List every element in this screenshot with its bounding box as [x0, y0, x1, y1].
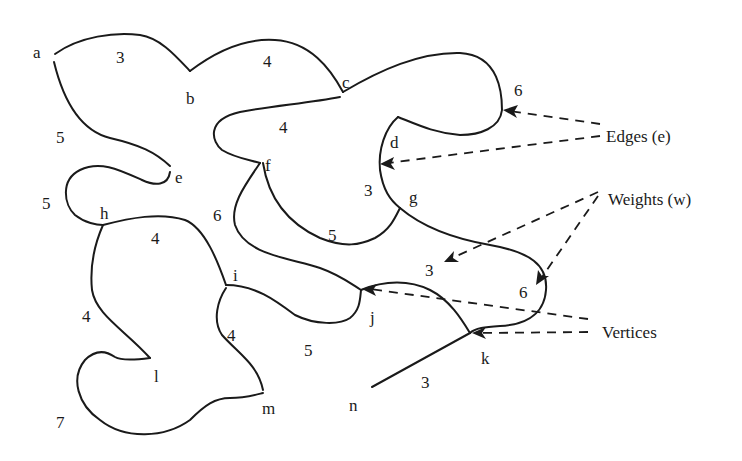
weight-label-i-j: 5 [304, 341, 313, 360]
weight-label-a-e: 5 [56, 128, 65, 147]
weight-label-a-b: 3 [116, 48, 125, 67]
vertex-label-k: k [481, 349, 490, 368]
vertex-label-d: d [390, 133, 399, 152]
vertex-label-a: a [33, 43, 41, 62]
legend-vertices: Vertices [602, 323, 657, 342]
edge-g-k [400, 208, 546, 333]
vertex-label-i: i [233, 266, 238, 285]
vertex-label-m: m [262, 399, 275, 418]
weight-label-b-c: 4 [263, 52, 272, 71]
vertex-label-h: h [100, 204, 109, 223]
edges-arrowhead-2 [380, 157, 395, 170]
weight-label-c-f: 4 [279, 118, 288, 137]
edge-h-l [91, 225, 150, 358]
weight-label-l-m: 7 [56, 413, 65, 432]
vertices-pointer-2 [480, 332, 588, 333]
weight-label-f-j: 6 [213, 206, 222, 225]
vertex-label-b: b [186, 89, 195, 108]
weight-label-c-d: 6 [514, 81, 523, 100]
legend-edges: Edges (e) [606, 127, 671, 146]
vertex-label-f: f [265, 156, 271, 175]
edge-a-e [54, 62, 170, 166]
edges-pointer-1 [510, 111, 600, 124]
edge-i-m [217, 288, 263, 390]
weight-label-j-k: 3 [425, 261, 434, 280]
weight-label-g-k: 6 [519, 283, 528, 302]
weights-arrowhead-1 [444, 251, 459, 262]
vertex-label-g: g [409, 188, 418, 207]
vertex-label-j: j [369, 308, 375, 327]
edge-c-d [343, 53, 502, 135]
weight-label-e-h: 5 [42, 194, 51, 213]
legend-weights: Weights (w) [608, 190, 691, 209]
edge-l-m [77, 352, 263, 434]
vertex-label-c: c [342, 73, 350, 92]
weight-label-i-m: 4 [227, 326, 236, 345]
weighted-graph-diagram: a b c d e f g h i j k l m n 3 4 5 4 6 3 … [0, 0, 742, 461]
weight-label-h-l: 4 [82, 307, 91, 326]
edges-pointer-2 [388, 136, 600, 163]
vertices-pointer-1 [370, 289, 588, 319]
weights-pointer-1 [450, 192, 598, 259]
edge-h-i [103, 216, 226, 285]
weight-label-f-g: 5 [328, 226, 337, 245]
graph-edges [54, 34, 546, 434]
weight-label-d-g: 3 [364, 181, 373, 200]
vertex-label-l: l [154, 367, 159, 386]
edge-c-f [214, 97, 340, 163]
vertex-label-e: e [175, 168, 183, 187]
weight-label-h-i: 4 [151, 229, 160, 248]
vertex-label-n: n [349, 396, 358, 415]
edge-i-j [226, 285, 361, 323]
edge-f-j [234, 163, 361, 290]
weight-label-k-n: 3 [421, 373, 430, 392]
legend: Edges (e) Weights (w) Vertices [602, 127, 691, 342]
weights-pointer-2 [540, 196, 598, 280]
